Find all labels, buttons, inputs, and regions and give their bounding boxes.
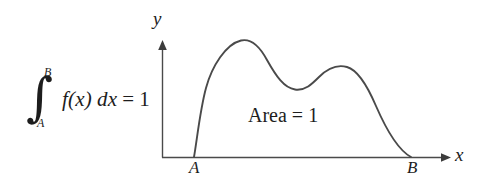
- point-a-label: A: [189, 158, 199, 178]
- x-axis-label: x: [455, 144, 463, 166]
- integral-lower-limit: A: [37, 116, 44, 131]
- point-b-label: B: [407, 158, 417, 178]
- graph-area: y x A B Area = 1: [148, 0, 495, 190]
- integral-sign-group: ∫ B A: [26, 64, 60, 130]
- y-axis: [158, 40, 167, 158]
- x-axis-arrowhead-icon: [441, 153, 451, 162]
- area-annotation: Area = 1: [248, 104, 318, 127]
- integral-upper-limit: B: [44, 65, 51, 80]
- function-curve: [194, 40, 411, 157]
- equals-sign: =: [122, 87, 134, 111]
- graph-svg: [148, 0, 495, 190]
- y-axis-arrowhead-icon: [158, 40, 167, 50]
- integrand-text: f(x): [62, 87, 92, 111]
- y-axis-label: y: [153, 8, 161, 30]
- integral-body: f(x)dx=1: [62, 87, 150, 112]
- differential-text: dx: [97, 87, 117, 111]
- math-figure-integral-area: ∫ B A f(x)dx=1 y x A B Are: [0, 0, 495, 190]
- integral-expression: ∫ B A f(x)dx=1: [26, 62, 156, 132]
